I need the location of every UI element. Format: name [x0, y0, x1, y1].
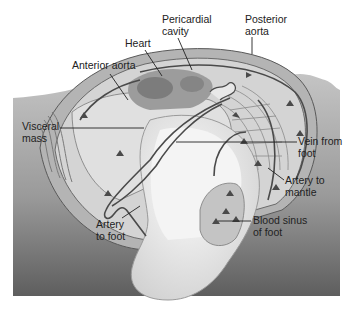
label-line: cavity: [162, 26, 212, 38]
label-visceral-mass: Visceral mass: [22, 121, 59, 144]
label-heart: Heart: [125, 38, 151, 50]
label-line: Vein from: [298, 136, 342, 148]
label-line: Blood sinus: [253, 215, 307, 227]
label-artery-to-foot: Artery to foot: [96, 219, 125, 242]
label-artery-to-mantle: Artery to mantle: [285, 175, 325, 198]
label-line: Artery: [96, 219, 125, 231]
label-anterior-aorta: Anterior aorta: [72, 60, 136, 72]
label-blood-sinus-of-foot: Blood sinus of foot: [253, 215, 307, 238]
label-posterior-aorta: Posterior aorta: [245, 14, 287, 37]
label-line: Visceral: [22, 121, 59, 133]
label-line: Heart: [125, 38, 151, 50]
clam-circulation-diagram: Pericardial cavity Posterior aorta Heart…: [0, 0, 352, 320]
label-pericardial-cavity: Pericardial cavity: [162, 14, 212, 37]
label-line: foot: [298, 148, 342, 160]
label-line: Anterior aorta: [72, 60, 136, 72]
label-line: aorta: [245, 26, 287, 38]
heart: [137, 77, 173, 99]
label-line: to foot: [96, 231, 125, 243]
diagram-illustration: [0, 0, 352, 320]
heart-ventricle: [180, 76, 204, 92]
label-line: mantle: [285, 187, 325, 199]
label-line: Pericardial: [162, 14, 212, 26]
label-line: of foot: [253, 227, 307, 239]
label-line: Artery to: [285, 175, 325, 187]
label-line: mass: [22, 133, 59, 145]
label-vein-from-foot: Vein from foot: [298, 136, 342, 159]
label-line: Posterior: [245, 14, 287, 26]
